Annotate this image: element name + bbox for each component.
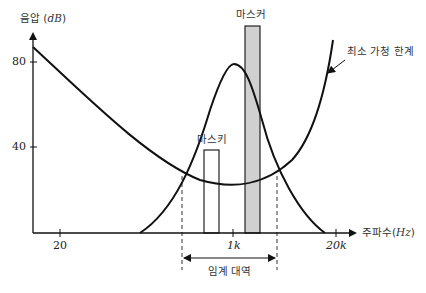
x-axis-label-unit: Hz (396, 226, 411, 238)
x-tick-label-20: 20 (53, 240, 67, 251)
maskee-bar (204, 150, 219, 233)
threshold-curve-label: 최소 가청 한계 (347, 46, 414, 57)
y-axis-label-unit: dB (47, 12, 61, 24)
maskee-label: 마스키 (197, 134, 227, 145)
x-axis-label: 주파수(Hz) (362, 227, 415, 238)
masking-curve (140, 64, 325, 233)
y-axis-label: 음압 (dB) (20, 13, 66, 24)
y-axis-label-text: 음압 (20, 12, 40, 24)
x-tick-label-20k: 20k (326, 240, 347, 251)
masker-label: 마스커 (236, 9, 266, 20)
y-tick-label-40: 40 (12, 141, 26, 152)
x-axis-label-text: 주파수 (362, 226, 392, 238)
critical-band-label: 임계 대역 (208, 266, 251, 277)
y-tick-label-80: 80 (12, 56, 26, 67)
threshold-pointer-arrow (328, 60, 345, 73)
threshold-curve (33, 40, 333, 185)
x-tick-label-1k: 1k (227, 240, 241, 251)
masker-bar (245, 26, 260, 233)
